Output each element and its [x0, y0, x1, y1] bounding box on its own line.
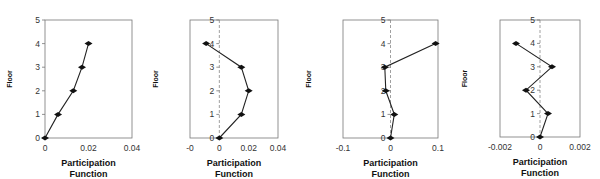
x-axis-label: Function	[70, 169, 108, 179]
y-tick-label: 0	[210, 133, 215, 143]
data-point-marker	[536, 135, 544, 140]
x-tick-label: 0.002	[569, 142, 591, 152]
plot-frame	[45, 20, 132, 138]
chart-panel-3: 012345-0.100.1ParticipationFunctionFloor	[305, 15, 444, 179]
y-tick-label: 0	[530, 132, 535, 142]
chart-panel-1: 01234500.020.04ParticipationFunctionFloo…	[6, 15, 141, 179]
y-tick-label: 3	[210, 62, 215, 72]
y-axis-label: Floor	[152, 70, 159, 88]
chart-canvas: 01234500.020.04ParticipationFunctionFloo…	[0, 0, 600, 179]
x-tick-label: 0	[43, 143, 48, 153]
plot-frame	[190, 20, 278, 138]
y-tick-label: 1	[35, 109, 40, 119]
y-tick-label: 3	[530, 62, 535, 72]
x-tick-label: 0.1	[432, 143, 444, 153]
x-tick-label: 0.04	[124, 143, 141, 153]
x-tick-label: 0.02	[240, 143, 257, 153]
y-tick-label: 1	[210, 109, 215, 119]
data-point-marker	[41, 136, 49, 141]
y-tick-label: 2	[35, 86, 40, 96]
y-tick-label: 1	[381, 109, 386, 119]
data-point-marker	[237, 112, 245, 117]
y-tick-label: 2	[530, 85, 535, 95]
y-tick-label: 0	[381, 133, 386, 143]
x-tick-label: -0.002	[488, 142, 512, 152]
chart-panel-4: 012345-0.00200.002ParticipationFunctionF…	[461, 15, 591, 178]
x-tick-label: 0.04	[270, 143, 287, 153]
x-tick-label: 0	[388, 143, 393, 153]
x-tick-label: 0	[538, 142, 543, 152]
data-point-marker	[215, 136, 223, 141]
y-axis-label: Floor	[305, 70, 312, 88]
x-axis-label: Participation	[207, 158, 262, 168]
y-tick-label: 2	[210, 86, 215, 96]
y-tick-label: 4	[35, 39, 40, 49]
x-tick-label: 0.02	[80, 143, 97, 153]
x-axis-label: Participation	[61, 158, 116, 168]
data-point-marker	[69, 88, 77, 93]
x-axis-label: Participation	[363, 158, 418, 168]
x-axis-label: Function	[521, 168, 559, 178]
chart-panel-2: 012345-000.020.04ParticipationFunctionFl…	[152, 15, 287, 179]
x-tick-label: -0.1	[336, 143, 351, 153]
mode-shape-line	[45, 44, 89, 138]
y-tick-label: 3	[35, 62, 40, 72]
x-axis-label: Participation	[513, 157, 568, 167]
y-axis-label: Floor	[6, 70, 13, 88]
data-point-marker	[522, 88, 530, 93]
y-tick-label: 1	[530, 109, 535, 119]
mode-shape-line	[385, 44, 436, 138]
data-point-marker	[387, 136, 395, 141]
y-tick-label: 0	[35, 133, 40, 143]
data-point-marker	[544, 111, 552, 116]
x-tick-label: -0	[186, 143, 194, 153]
data-point-marker	[245, 88, 253, 93]
data-point-marker	[85, 41, 93, 46]
y-tick-label: 5	[381, 15, 386, 25]
y-tick-label: 4	[381, 39, 386, 49]
y-axis-label: Floor	[461, 69, 468, 87]
data-point-marker	[78, 65, 86, 70]
data-point-marker	[390, 112, 398, 117]
x-tick-label: 0	[217, 143, 222, 153]
x-axis-label: Function	[372, 169, 410, 179]
data-point-marker	[54, 112, 62, 117]
x-axis-label: Function	[215, 169, 253, 179]
y-tick-label: 4	[530, 38, 535, 48]
y-tick-label: 5	[35, 15, 40, 25]
y-tick-label: 5	[530, 15, 535, 25]
y-tick-label: 5	[210, 15, 215, 25]
